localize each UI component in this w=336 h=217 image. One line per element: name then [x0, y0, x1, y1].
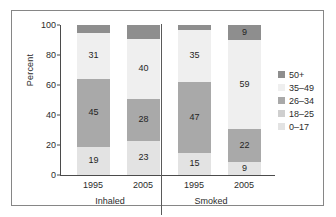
- bar-segment: 28: [127, 99, 160, 141]
- bar-segment-value: 15: [189, 159, 199, 168]
- bar-segment-value: 35: [189, 51, 199, 60]
- bar-segment: 35: [178, 30, 211, 83]
- bar-segment-value: 9: [242, 164, 247, 173]
- y-axis-label: Percent: [25, 30, 35, 110]
- stacked-bar: 314519: [77, 25, 110, 175]
- chart-frame: Percent 100806040200 3145194028233547159…: [11, 10, 324, 206]
- x-tick-label: 2005: [222, 180, 266, 190]
- bar-segment: [77, 25, 110, 33]
- legend-item: 35–49: [278, 81, 314, 94]
- stacked-bar: 402823: [127, 25, 160, 175]
- bar-segment: [127, 25, 160, 39]
- bar-segment: 31: [77, 33, 110, 80]
- legend-label: 18–25: [289, 109, 314, 119]
- legend-label: 0–17: [289, 122, 309, 132]
- y-tick-mark: [57, 85, 60, 86]
- group-label: Smoked: [161, 196, 261, 206]
- legend-item: 50+: [278, 68, 314, 81]
- stacked-bar: 959229: [228, 25, 261, 175]
- y-tick-mark: [57, 115, 60, 116]
- y-tick-mark: [57, 25, 60, 26]
- y-tick-mark: [57, 55, 60, 56]
- bar-segment: 59: [228, 40, 261, 129]
- bar-segment: 23: [127, 141, 160, 176]
- bar-segment: 19: [77, 147, 110, 176]
- bar-segment-value: 9: [242, 28, 247, 37]
- y-tick-mark: [57, 175, 60, 176]
- bar-segment-value: 19: [88, 156, 98, 165]
- bar-segment: 15: [178, 153, 211, 176]
- legend-label: 50+: [289, 70, 304, 80]
- group-label: Inhaled: [60, 196, 160, 206]
- bar-segment: 45: [77, 79, 110, 147]
- legend-swatch: [278, 123, 285, 130]
- bar-segment-value: 31: [88, 51, 98, 60]
- legend-item: 26–34: [278, 94, 314, 107]
- bar-segment: 9: [228, 25, 261, 40]
- legend-item: 0–17: [278, 120, 314, 133]
- bar-segment: 47: [178, 82, 211, 153]
- x-tick-label: 1995: [71, 180, 115, 190]
- bar-segment: 22: [228, 129, 261, 162]
- bar-segment: 40: [127, 39, 160, 99]
- legend-label: 35–49: [289, 83, 314, 93]
- legend-label: 26–34: [289, 96, 314, 106]
- legend-swatch: [278, 84, 285, 91]
- y-tick-mark: [57, 145, 60, 146]
- legend-swatch: [278, 71, 285, 78]
- bar-segment-value: 59: [239, 80, 249, 89]
- legend-swatch: [278, 97, 285, 104]
- bar-segment-value: 47: [189, 113, 199, 122]
- plot-area: 100806040200 314519402823354715959229 19…: [60, 25, 265, 175]
- bar-segment-value: 40: [138, 64, 148, 73]
- bar-segment-value: 23: [138, 153, 148, 162]
- bar-segment-value: 28: [138, 115, 148, 124]
- stacked-bar: 354715: [178, 25, 211, 175]
- bar-segment-value: 22: [239, 141, 249, 150]
- bar-segment-value: 45: [88, 108, 98, 117]
- x-axis-line: [60, 175, 275, 176]
- x-tick-label: 1995: [172, 180, 216, 190]
- y-axis-line: [60, 25, 61, 175]
- chart-legend: 50+35–4926–3418–250–17: [278, 68, 314, 133]
- chart-figure: Percent 100806040200 3145194028233547159…: [0, 0, 336, 217]
- x-tick-label: 2005: [121, 180, 165, 190]
- bar-segment: 9: [228, 162, 261, 176]
- legend-item: 18–25: [278, 107, 314, 120]
- legend-swatch: [278, 110, 285, 117]
